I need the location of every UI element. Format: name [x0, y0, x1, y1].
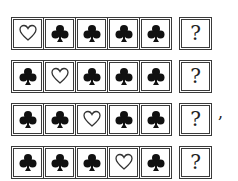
club-icon	[82, 23, 102, 43]
puzzle-row-4: ?	[13, 146, 213, 178]
puzzle-row-2: ?	[13, 60, 213, 92]
club-icon	[82, 66, 102, 86]
club-icon	[82, 152, 102, 172]
symbol-cell	[77, 105, 106, 134]
puzzle-row-3: ?,	[13, 103, 213, 135]
trailing-comma: ,	[218, 103, 223, 122]
heart-icon	[18, 23, 38, 43]
symbol-cell	[141, 19, 170, 48]
answer-cell: ?	[181, 19, 210, 48]
symbol-cell	[13, 148, 42, 177]
symbol-cell	[77, 19, 106, 48]
question-mark: ?	[190, 23, 201, 43]
puzzle-row-1: ?	[13, 17, 213, 49]
club-icon	[18, 66, 38, 86]
club-icon	[114, 23, 134, 43]
symbol-cell	[77, 148, 106, 177]
symbol-cell	[141, 148, 170, 177]
club-icon	[50, 152, 70, 172]
question-mark: ?	[190, 66, 201, 86]
symbol-cell	[13, 19, 42, 48]
heart-icon	[50, 66, 70, 86]
question-mark: ?	[190, 109, 201, 129]
symbol-puzzle-grid: ???,?	[13, 17, 213, 181]
symbol-cell	[45, 19, 74, 48]
answer-cell: ?	[181, 62, 210, 91]
symbol-cell	[13, 62, 42, 91]
symbol-cell	[109, 105, 138, 134]
club-icon	[146, 23, 166, 43]
club-icon	[146, 152, 166, 172]
symbol-cell	[109, 62, 138, 91]
answer-cell: ?	[181, 105, 210, 134]
symbol-cell	[109, 148, 138, 177]
symbol-cell	[45, 105, 74, 134]
club-icon	[18, 109, 38, 129]
symbol-cell	[77, 62, 106, 91]
club-icon	[50, 23, 70, 43]
symbol-cell	[109, 19, 138, 48]
symbol-cell	[13, 105, 42, 134]
symbol-cell	[45, 62, 74, 91]
question-mark: ?	[190, 152, 201, 172]
symbol-cell	[141, 105, 170, 134]
club-icon	[146, 66, 166, 86]
club-icon	[114, 66, 134, 86]
answer-cell: ?	[181, 148, 210, 177]
symbol-cell	[45, 148, 74, 177]
heart-icon	[82, 109, 102, 129]
club-icon	[146, 109, 166, 129]
symbol-cell	[141, 62, 170, 91]
heart-icon	[114, 152, 134, 172]
club-icon	[114, 109, 134, 129]
club-icon	[50, 109, 70, 129]
club-icon	[18, 152, 38, 172]
